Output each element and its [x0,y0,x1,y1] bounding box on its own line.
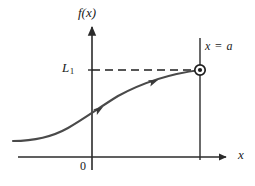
limit-value-label: L1 [62,61,74,76]
vertical-line-label: x = a [205,40,233,52]
limit-point-marker-icon [195,65,205,75]
x-axis-label: x [238,148,244,161]
limit-value-subscript: 1 [70,66,75,76]
limit-graph-figure: f(x) x 0 L1 x = a [0,0,255,186]
origin-label: 0 [80,160,86,172]
function-curve [13,70,200,141]
y-axis-label: f(x) [78,6,96,19]
figure-canvas [0,0,255,186]
limit-value-base: L [62,60,69,75]
